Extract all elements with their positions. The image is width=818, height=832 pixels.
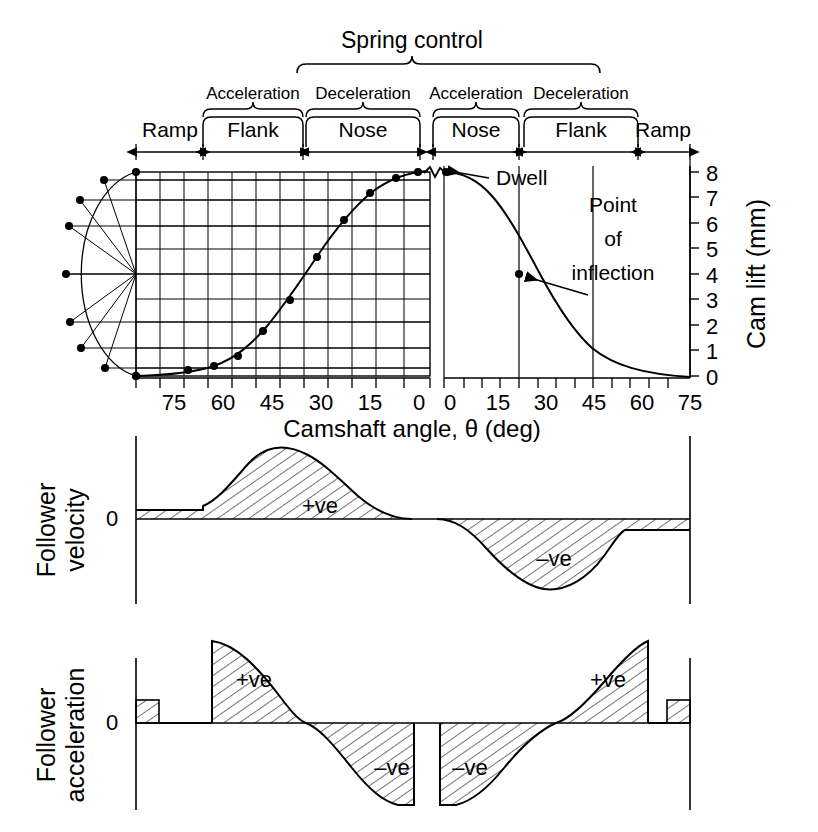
segment-label-block: Spring control Acceleration Deceleration… — [136, 27, 691, 160]
lift-x-tick-r-15: 15 — [486, 390, 510, 415]
spring-control-brace — [297, 56, 600, 73]
lift-y-tick-8: 8 — [706, 161, 718, 186]
point-of-inflection-label-line1: Point — [589, 193, 637, 216]
segment-label-nose-left: Nose — [338, 118, 387, 141]
acceleration-positive-right-label: +ve — [590, 667, 626, 692]
lift-x-tick-r-0: 0 — [444, 390, 456, 415]
lift-x-tick-l-30: 30 — [309, 390, 333, 415]
lift-x-tick-l-45: 45 — [260, 390, 284, 415]
follower-acceleration-chart: Follower acceleration 0 +ve –ve –ve +ve — [32, 641, 690, 810]
acceleration-right-label: Acceleration — [429, 84, 523, 103]
figure-svg: Spring control Acceleration Deceleration… — [0, 0, 818, 832]
deceleration-left-brace — [306, 102, 420, 117]
segment-label-ramp-right: Ramp — [635, 118, 691, 141]
follower-velocity-chart: Follower velocity 0 +ve –ve — [32, 436, 690, 604]
velocity-negative-label: –ve — [536, 546, 571, 571]
lift-x-axis: 75 60 45 30 15 0 0 15 30 45 60 75 Camsha… — [136, 378, 702, 442]
lift-y-axis-title: Cam lift (mm) — [742, 199, 770, 349]
acceleration-y-axis-title-line2: acceleration — [61, 668, 89, 803]
segment-label-nose-right: Nose — [451, 118, 500, 141]
deceleration-right-brace — [524, 102, 638, 117]
lift-x-axis-title: Camshaft angle, θ (deg) — [283, 415, 540, 442]
deceleration-right-label: Deceleration — [533, 84, 628, 103]
lift-x-tick-r-45: 45 — [582, 390, 606, 415]
acceleration-negative-right-label: –ve — [452, 755, 487, 780]
lift-x-tick-l-15: 15 — [358, 390, 382, 415]
velocity-y-axis-title-line1: Follower — [32, 483, 60, 577]
acceleration-zero-label: 0 — [106, 710, 118, 735]
lift-grid-left — [136, 172, 430, 376]
velocity-positive-fill — [136, 447, 412, 519]
cam-diagram-figure: Spring control Acceleration Deceleration… — [0, 0, 818, 832]
lift-x-axis-ticks — [136, 378, 668, 388]
lift-x-tick-r-75: 75 — [678, 390, 702, 415]
velocity-positive-label: +ve — [302, 493, 338, 518]
lift-y-tick-6: 6 — [706, 212, 718, 237]
lift-x-tick-l-60: 60 — [211, 390, 235, 415]
point-of-inflection-label-line2: of — [604, 227, 622, 250]
velocity-y-axis-title-line2: velocity — [61, 488, 89, 572]
lift-y-tick-4: 4 — [706, 263, 718, 288]
lift-x-tick-l-0: 0 — [413, 390, 425, 415]
acceleration-left-label: Acceleration — [206, 84, 300, 103]
acceleration-negative-left-label: –ve — [374, 755, 409, 780]
lift-y-tick-7: 7 — [706, 186, 718, 211]
acceleration-right-brace — [433, 102, 519, 117]
lift-y-axis-ticks — [690, 172, 699, 376]
segment-label-flank-left: Flank — [227, 118, 279, 141]
lift-x-tick-l-75: 75 — [162, 390, 186, 415]
lift-y-tick-0: 0 — [706, 365, 718, 390]
acceleration-ramp-pulse-right — [667, 700, 690, 723]
velocity-zero-label: 0 — [106, 506, 118, 531]
lift-x-tick-r-60: 60 — [630, 390, 654, 415]
lift-y-tick-1: 1 — [706, 339, 718, 364]
lift-y-tick-2: 2 — [706, 314, 718, 339]
acceleration-y-axis-title-line1: Follower — [32, 688, 60, 782]
dwell-label: Dwell — [496, 166, 547, 189]
acceleration-positive-left-label: +ve — [236, 667, 272, 692]
lift-y-axis: 8 7 6 5 4 3 2 1 0 Cam lift (mm) — [690, 161, 770, 390]
acceleration-ramp-pulse-left — [136, 700, 159, 723]
lift-x-tick-r-30: 30 — [534, 390, 558, 415]
spring-control-label: Spring control — [341, 27, 483, 53]
segment-label-ramp-left: Ramp — [142, 118, 198, 141]
lift-y-tick-3: 3 — [706, 288, 718, 313]
point-of-inflection-label-line3: inflection — [572, 261, 655, 284]
segment-label-flank-right: Flank — [555, 118, 607, 141]
acceleration-left-brace — [203, 102, 303, 117]
cam-lift-chart: Dwell Point of inflection 8 7 6 5 — [62, 160, 770, 442]
lift-y-tick-5: 5 — [706, 237, 718, 262]
deceleration-left-label: Deceleration — [315, 84, 410, 103]
